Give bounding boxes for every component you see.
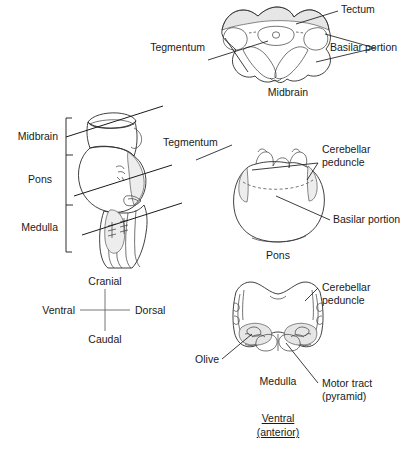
- sagittal-brainstem: [66, 106, 232, 268]
- label-sagittal-midbrain: Midbrain: [18, 130, 58, 143]
- label-sagittal-medulla: Medulla: [21, 221, 58, 234]
- label-compass-cranial: Cranial: [88, 275, 121, 288]
- orientation-compass: [80, 289, 130, 331]
- label-basilar-portion-pons: Basilar portion: [333, 213, 400, 226]
- medulla-cross-section: [222, 282, 323, 383]
- label-compass-ventral: Ventral: [42, 304, 75, 317]
- leader-basilar-pons: [276, 196, 330, 220]
- section-plane-midbrain: [66, 106, 163, 137]
- pons-cross-section: [234, 149, 330, 242]
- caption-ventral-orientation-line1: Ventral: [262, 412, 295, 425]
- label-cerebellar-peduncle-medulla: Cerebellar peduncle: [322, 281, 400, 306]
- label-cerebellar-peduncle-pons: Cerebellar peduncle: [322, 143, 400, 168]
- region-bracket: [66, 118, 72, 252]
- label-tectum: Tectum: [341, 3, 375, 16]
- caption-ventral-orientation-line2: (anterior): [257, 426, 300, 439]
- caption-pons: Pons: [266, 249, 290, 262]
- section-plane-pons: [74, 165, 172, 196]
- label-olive: Olive: [195, 353, 219, 366]
- label-sagittal-pons: Pons: [28, 173, 52, 186]
- label-motor-tract: Motor tract (pyramid): [322, 377, 400, 402]
- leader-tegmentum-midbrain-2: [225, 38, 248, 72]
- label-basilar-portion-midbrain: Basilar portion: [330, 41, 397, 54]
- label-tegmentum-midbrain: Tegmentum: [150, 41, 205, 54]
- label-compass-dorsal: Dorsal: [135, 304, 165, 317]
- brainstem-figure: Tectum Basilar portion Tegmentum Midbrai…: [0, 0, 413, 455]
- label-compass-caudal: Caudal: [88, 333, 121, 346]
- caption-medulla: Medulla: [260, 375, 297, 388]
- caption-midbrain: Midbrain: [268, 86, 308, 99]
- label-tegmentum-sagittal: Tegmentum: [163, 136, 218, 149]
